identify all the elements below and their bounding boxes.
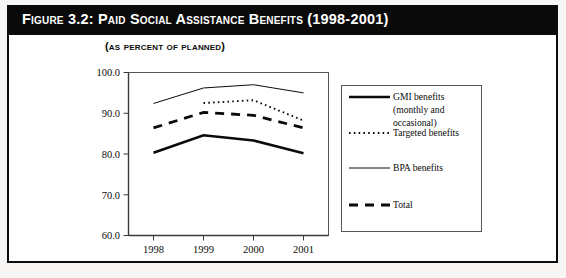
figure-frame: Figure 3.2: Paid Social Assistance Benef… [7,5,558,263]
figure-title-bar: Figure 3.2: Paid Social Assistance Benef… [9,7,556,35]
figure-title: Figure 3.2: Paid Social Assistance Benef… [22,11,388,27]
figure-container: Figure 3.2: Paid Social Assistance Benef… [0,0,566,278]
figure-subtitle: (as percent of planned) [105,40,225,52]
